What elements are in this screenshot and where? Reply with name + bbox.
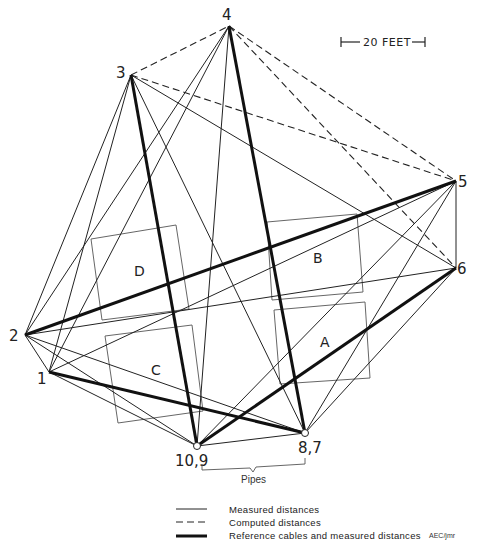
- scale-bar: 20 FEET: [341, 36, 425, 49]
- measured-line-4-109: [197, 26, 229, 446]
- measured-line-2-109: [25, 335, 197, 446]
- measured-line-4-1: [49, 26, 229, 372]
- scale-bar-label: 20 FEET: [363, 36, 411, 49]
- credit-label: AEC/jmr: [429, 532, 456, 540]
- point-label-8-7: 8,7: [298, 439, 322, 457]
- square-label-b: B: [313, 250, 323, 266]
- measured-line-6-87: [305, 268, 456, 433]
- point-label-1: 1: [37, 370, 47, 388]
- computed-line-3-5: [131, 75, 456, 181]
- point-label-6: 6: [457, 260, 467, 278]
- measured-line-5-87: [305, 181, 456, 433]
- legend-computed-label: Computed distances: [229, 517, 321, 528]
- pipes-bracket: Pipes: [202, 458, 305, 485]
- reference-line-4-87: [229, 26, 305, 433]
- measured-line-3-87: [131, 75, 305, 433]
- measured-line-3-1: [49, 75, 131, 372]
- legend-measured-label: Measured distances: [229, 504, 319, 515]
- computed-line-3-4: [131, 26, 229, 75]
- computed-line-4-6: [229, 26, 456, 268]
- measured-line-5-1: [49, 181, 456, 372]
- point-label-4: 4: [222, 6, 232, 24]
- square-label-d: D: [134, 263, 145, 279]
- measured-line-4-2: [25, 26, 229, 335]
- point-label-10-9: 10,9: [175, 452, 208, 470]
- measured-line-1-109: [49, 372, 197, 446]
- point-label-2: 2: [9, 327, 19, 345]
- pipe-marker-87: [302, 430, 309, 437]
- point-label-3: 3: [116, 64, 126, 82]
- legend-reference-label: Reference cables and measured distances: [229, 530, 421, 541]
- legend: Measured distances Computed distances Re…: [176, 504, 456, 541]
- reference-line-6-109: [197, 268, 456, 446]
- square-label-c: C: [151, 362, 161, 378]
- reference-line-3-109: [131, 75, 197, 446]
- point-label-5: 5: [458, 173, 468, 191]
- measured-line-2-87: [25, 335, 305, 433]
- survey-diagram: 1 2 3 4 5 6 8,7 10,9 A B C D 20 FEET Pip…: [0, 0, 477, 550]
- connection-lines: [25, 26, 456, 446]
- reference-line-1-87: [49, 372, 305, 433]
- measured-line-5-109: [197, 181, 456, 446]
- pipe-marker-109: [194, 443, 201, 450]
- measured-line-3-2: [25, 75, 131, 335]
- pipes-label: Pipes: [241, 474, 266, 485]
- measured-line-2-1: [25, 335, 49, 372]
- measured-line-6-2: [25, 268, 456, 335]
- square-label-a: A: [320, 334, 330, 350]
- computed-line-4-5: [229, 26, 456, 181]
